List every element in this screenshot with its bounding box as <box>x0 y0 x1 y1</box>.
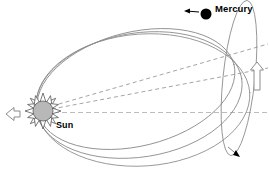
middle-orbit-ellipse <box>27 17 252 171</box>
mercury-motion-arrow <box>184 8 199 13</box>
sun-core <box>33 101 53 121</box>
sun-label: Sun <box>56 121 73 130</box>
mercury-planet-dot <box>201 9 212 20</box>
diagram-canvas <box>0 0 269 171</box>
mercury-label: Mercury <box>215 4 253 14</box>
precession-arrow-right <box>251 62 264 90</box>
perihelion-shift-arrow-left <box>6 108 20 121</box>
orbit-diagram-figure: Mercury Sun <box>0 0 269 171</box>
major-axis-upper-dashed <box>52 44 268 106</box>
mercury-group <box>184 8 212 19</box>
orbits-group <box>24 0 263 171</box>
major-axis-middle-dashed <box>52 68 268 109</box>
